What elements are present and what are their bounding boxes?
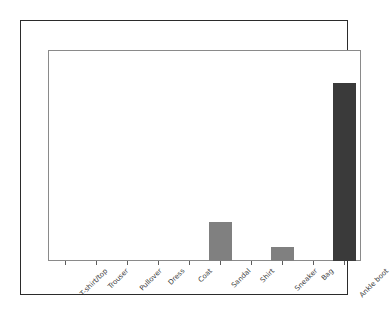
x-tick-label: T-shirt/top [78, 267, 109, 298]
x-tick-label: Trouser [106, 267, 130, 291]
x-tick [344, 261, 345, 265]
x-tick [127, 261, 128, 265]
bar-ankle-boot [333, 83, 356, 261]
x-tick-label: Shirt [259, 267, 276, 284]
x-tick-label: Pullover [138, 267, 163, 292]
x-tick-label: Sandal [230, 267, 253, 290]
x-tick [220, 261, 221, 265]
x-tick [313, 261, 314, 265]
x-tick-label: Ankle boot [358, 267, 390, 299]
bar-sneaker [271, 247, 294, 261]
x-tick [65, 261, 66, 265]
x-tick [96, 261, 97, 265]
x-tick-label: Coat [197, 267, 214, 284]
x-tick-label: Bag [320, 267, 335, 282]
plot-area [49, 51, 360, 261]
x-tick [282, 261, 283, 265]
figure-border: T-shirt/topTrouserPulloverDressCoatSanda… [20, 20, 348, 295]
x-tick [189, 261, 190, 265]
bar-sandal [209, 222, 232, 261]
x-tick-label: Dress [167, 267, 187, 287]
x-tick [158, 261, 159, 265]
x-tick-label: Sneaker [294, 267, 320, 293]
x-tick [251, 261, 252, 265]
